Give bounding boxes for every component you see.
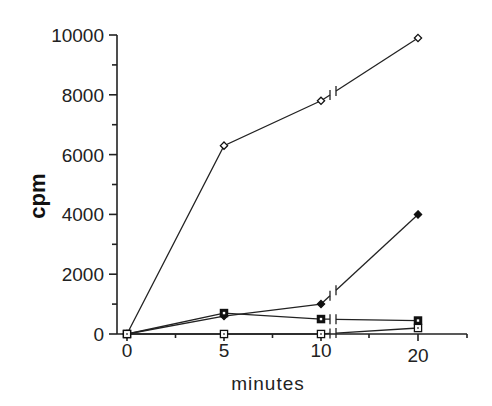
marker-dot [126,333,128,335]
series-line [127,101,321,334]
open-diamond-marker [220,142,227,149]
y-tick-label: 0 [93,324,104,345]
x-tick-label: 0 [122,340,133,361]
axes [109,35,467,341]
y-tick-label: 10000 [51,25,104,46]
series-filled-diamond [123,211,421,338]
series-line [336,38,418,91]
x-tick-label: 5 [219,340,230,361]
y-tick-label: 8000 [62,85,104,106]
open-diamond-marker [317,97,324,104]
marker-center [223,312,225,314]
marker-center [320,318,322,320]
y-tick-label: 6000 [62,145,104,166]
tick-labels: 0200040006000800010000051020 [51,25,428,366]
line-chart: 0200040006000800010000051020 minutes cpm [0,0,492,406]
x-axis-title: minutes [231,373,305,394]
y-axis-title: cpm [25,173,50,218]
series-line [336,319,418,320]
marker-dot [320,333,322,335]
series-line [336,214,418,290]
y-tick-label: 2000 [62,264,104,285]
series-open-diamond [123,34,421,337]
open-diamond-marker [414,34,421,41]
marker-dot [417,327,419,329]
marker-center [417,319,419,321]
marker-dot [223,333,225,335]
series-group [123,34,421,338]
x-tick-label: 20 [407,345,428,366]
y-tick-label: 4000 [62,204,104,225]
x-tick-label: 10 [310,340,331,361]
series-line [336,328,418,333]
